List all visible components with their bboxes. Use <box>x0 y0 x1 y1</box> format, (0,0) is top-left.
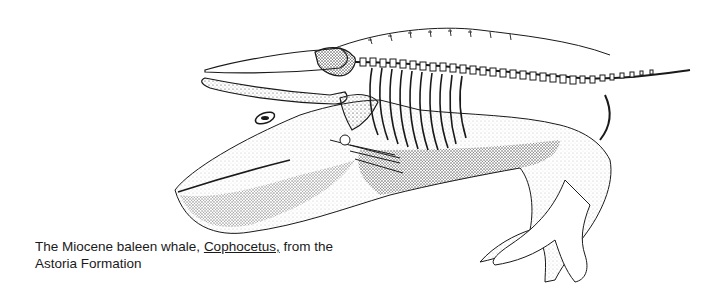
caption-suffix: from the <box>283 239 333 254</box>
skull <box>315 48 355 76</box>
vertebral-column <box>355 58 690 84</box>
figure-caption: The Miocene baleen whale, Cophocetus, fr… <box>35 238 365 272</box>
caption-genus: Cophocetus, <box>204 239 280 254</box>
caption-prefix: The Miocene baleen whale, <box>35 239 200 254</box>
caption-line2: Astoria Formation <box>35 256 142 271</box>
mandible <box>202 78 347 104</box>
